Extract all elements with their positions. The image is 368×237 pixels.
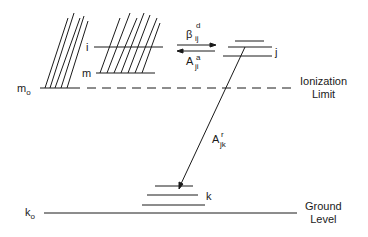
beta-sup: d: [196, 20, 200, 31]
label-k-text: k: [206, 190, 212, 202]
label-j: j: [275, 46, 277, 58]
label-k0: ko: [25, 206, 35, 223]
symbol-beta-d-ij: β d ij: [186, 29, 192, 40]
label-k0-sub: o: [31, 212, 35, 221]
continuum-hatch-m: [100, 13, 160, 73]
label-m0-main: m: [17, 82, 26, 94]
A-rad-symbol: A: [212, 133, 219, 145]
label-m0: mo: [17, 82, 31, 99]
beta-sub: ij: [195, 33, 199, 44]
A-auto-symbol: A: [186, 55, 193, 67]
arrow-radiative-decay-icon: [179, 47, 245, 189]
symbol-A-a-ji: A a ji: [186, 56, 193, 67]
ionization-line1: Ionization: [300, 75, 347, 88]
label-j-text: j: [275, 46, 277, 58]
level-j-lines: [223, 41, 272, 56]
annotation-ground-level: Ground Level: [305, 200, 342, 226]
symbol-A-r-jk: A r jk: [212, 134, 219, 145]
level-k-lines: [142, 186, 205, 205]
label-m0-sub: o: [26, 88, 30, 97]
label-m: m: [82, 67, 91, 79]
A-auto-sub: ji: [195, 61, 199, 72]
label-m-text: m: [82, 67, 91, 79]
label-i-text: i: [86, 41, 88, 53]
label-k: k: [206, 190, 212, 202]
ground-line1: Ground: [305, 200, 342, 213]
ionization-line2: Limit: [300, 88, 347, 101]
beta-symbol: β: [186, 28, 192, 40]
annotation-ionization-limit: Ionization Limit: [300, 75, 347, 101]
A-rad-sub: jk: [220, 139, 226, 150]
ground-line2: Level: [305, 213, 342, 226]
label-i: i: [86, 41, 88, 53]
